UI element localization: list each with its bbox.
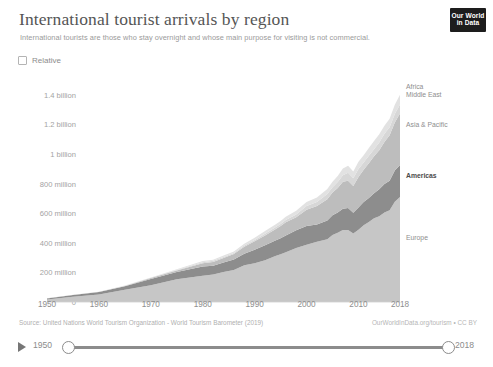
relative-toggle[interactable]: Relative <box>18 56 61 65</box>
slider-max-year: 2018 <box>455 340 474 350</box>
series-label-americas[interactable]: Americas <box>406 172 437 179</box>
slider-track[interactable] <box>68 346 447 349</box>
x-tick-label: 1970 <box>142 300 160 309</box>
series-label-africa[interactable]: Africa <box>406 83 423 90</box>
source-note: Source: United Nations World Tourism Org… <box>19 319 263 326</box>
x-tick-label: 1950 <box>38 300 56 309</box>
x-tick-label: 1960 <box>90 300 108 309</box>
series-label-middle-east[interactable]: Middle East <box>406 91 442 98</box>
play-icon[interactable] <box>18 342 26 352</box>
our-world-in-data-logo[interactable]: Our World in Data <box>450 8 486 32</box>
x-axis-tick-labels: 19501960197019801990200020102018 <box>0 300 493 314</box>
relative-checkbox[interactable] <box>18 56 27 65</box>
chart-subtitle: International tourists are those who sta… <box>20 33 370 42</box>
page-title: International tourist arrivals by region <box>19 9 289 30</box>
x-tick-label: 1980 <box>194 300 212 309</box>
logo-line-2: in Data <box>457 20 480 27</box>
slider-min-year: 1950 <box>33 340 52 350</box>
chart-plot-area: 0200 million400 million600 million800 mi… <box>0 72 493 312</box>
x-tick-label: 1990 <box>246 300 264 309</box>
slider-handle-end[interactable] <box>442 341 455 354</box>
stacked-area-chart[interactable] <box>0 72 493 312</box>
relative-label: Relative <box>32 56 61 65</box>
source-link[interactable]: OurWorldInData.org/tourism • CC BY <box>372 319 477 326</box>
series-label-europe[interactable]: Europe <box>406 234 428 241</box>
slider-handle-start[interactable] <box>62 341 75 354</box>
x-tick-label: 2010 <box>349 300 367 309</box>
x-tick-label: 2018 <box>391 300 409 309</box>
series-label-asia-pacific[interactable]: Asia & Pacific <box>406 121 448 128</box>
x-tick-label: 2000 <box>297 300 315 309</box>
chart-page: International tourist arrivals by region… <box>0 0 493 367</box>
time-slider[interactable]: 1950 2018 <box>0 336 493 362</box>
